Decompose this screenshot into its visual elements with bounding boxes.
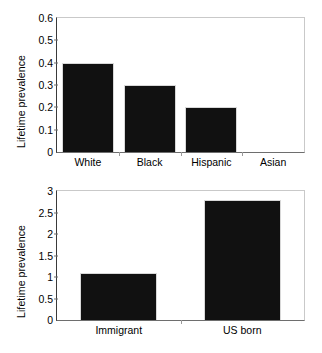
y-tick-mark bbox=[54, 298, 58, 299]
x-tick-label: US born bbox=[223, 324, 262, 336]
x-tick-mark bbox=[181, 152, 182, 156]
bar bbox=[62, 63, 114, 152]
x-tick-label: Black bbox=[137, 156, 163, 168]
y-tick-label: 0.3 bbox=[38, 79, 53, 91]
bar-series-top bbox=[57, 18, 304, 152]
y-tick-label: 0.4 bbox=[38, 57, 53, 69]
bar-series-bottom bbox=[57, 191, 304, 320]
plot-area-bottom: 00.511.522.53ImmigrantUS born bbox=[56, 190, 305, 321]
y-tick-label: 0.5 bbox=[38, 34, 53, 46]
y-tick-mark bbox=[54, 277, 58, 278]
y-tick-mark bbox=[54, 255, 58, 256]
x-tick-label: Hispanic bbox=[191, 156, 231, 168]
x-tick-label: White bbox=[74, 156, 101, 168]
x-tick-label: Immigrant bbox=[95, 324, 142, 336]
y-tick-label: 2 bbox=[47, 228, 53, 240]
bar bbox=[204, 200, 281, 320]
y-axis-title-top: Lifetime prevalence bbox=[16, 55, 27, 148]
chart-panel-top: Lifetime prevalence 00.10.20.30.40.50.6W… bbox=[0, 0, 322, 176]
figure-container: Lifetime prevalence 00.10.20.30.40.50.6W… bbox=[0, 0, 322, 353]
bar bbox=[124, 85, 176, 152]
y-tick-mark bbox=[54, 212, 58, 213]
y-tick-label: 3 bbox=[47, 185, 53, 197]
y-tick-label: 1 bbox=[47, 271, 53, 283]
y-tick-label: 0 bbox=[47, 146, 53, 158]
x-tick-mark bbox=[181, 320, 182, 324]
bar bbox=[80, 273, 157, 320]
y-tick-label: 0.1 bbox=[38, 124, 53, 136]
y-tick-mark bbox=[54, 62, 58, 63]
y-tick-mark bbox=[54, 40, 58, 41]
y-tick-label: 0.5 bbox=[38, 293, 53, 305]
plot-area-top: 00.10.20.30.40.50.6WhiteBlackHispanicAsi… bbox=[56, 17, 305, 153]
y-tick-label: 1.5 bbox=[38, 250, 53, 262]
y-tick-mark bbox=[54, 129, 58, 130]
y-tick-label: 0.2 bbox=[38, 101, 53, 113]
y-axis-title-bottom: Lifetime prevalence bbox=[16, 225, 27, 318]
x-tick-label: Asian bbox=[260, 156, 286, 168]
y-tick-label: 0 bbox=[47, 314, 53, 326]
y-tick-mark bbox=[54, 234, 58, 235]
y-tick-mark bbox=[54, 85, 58, 86]
y-tick-mark bbox=[54, 107, 58, 108]
x-tick-mark bbox=[119, 152, 120, 156]
y-tick-label: 2.5 bbox=[38, 207, 53, 219]
bar bbox=[185, 107, 237, 152]
chart-panel-bottom: Lifetime prevalence 00.511.522.53Immigra… bbox=[0, 176, 322, 353]
x-tick-mark bbox=[242, 152, 243, 156]
y-tick-label: 0.6 bbox=[38, 12, 53, 24]
